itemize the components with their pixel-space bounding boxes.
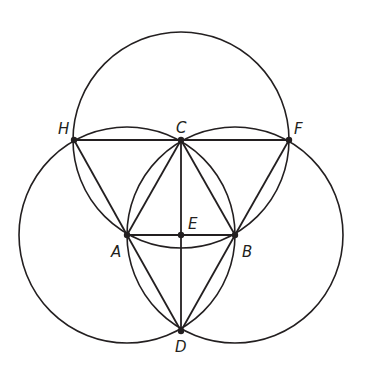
label-H: H bbox=[58, 120, 69, 138]
segment-BD bbox=[181, 235, 235, 331]
point-C bbox=[178, 137, 184, 143]
label-C: C bbox=[176, 119, 187, 137]
point-H bbox=[71, 137, 77, 143]
segment-AC bbox=[127, 140, 181, 235]
segment-AD bbox=[127, 235, 181, 331]
segment-BF bbox=[235, 140, 289, 235]
point-F bbox=[286, 137, 292, 143]
geometry-diagram: HCFAEBD bbox=[0, 0, 367, 380]
point-D bbox=[178, 328, 184, 334]
label-F: F bbox=[294, 120, 303, 138]
point-E bbox=[178, 232, 184, 238]
label-E: E bbox=[188, 215, 198, 233]
label-A: A bbox=[110, 243, 121, 261]
label-B: B bbox=[242, 243, 252, 261]
point-A bbox=[124, 232, 130, 238]
point-B bbox=[232, 232, 238, 238]
label-D: D bbox=[175, 338, 187, 356]
segment-HA bbox=[74, 140, 127, 235]
